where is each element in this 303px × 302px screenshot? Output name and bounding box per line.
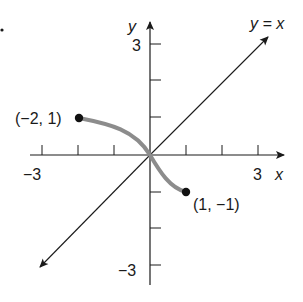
point-end bbox=[182, 188, 190, 196]
point-start bbox=[75, 114, 83, 122]
x-min-label: −3 bbox=[23, 166, 41, 183]
y-min-label: −3 bbox=[118, 262, 136, 279]
identity-line bbox=[150, 37, 268, 155]
point-end-label: (1, −1) bbox=[193, 196, 240, 213]
identity-line-lower bbox=[40, 155, 150, 267]
graph: y 3 −3 −3 3 x y = x (−2, 1) (1, −1) bbox=[0, 0, 303, 302]
y-max-label: 3 bbox=[132, 37, 141, 54]
line-label: y = x bbox=[249, 15, 285, 32]
x-axis-label: x bbox=[274, 166, 284, 183]
y-axis-label: y bbox=[127, 18, 137, 35]
x-max-label: 3 bbox=[253, 166, 262, 183]
bullet-dot bbox=[0, 28, 3, 31]
point-start-label: (−2, 1) bbox=[15, 110, 62, 127]
